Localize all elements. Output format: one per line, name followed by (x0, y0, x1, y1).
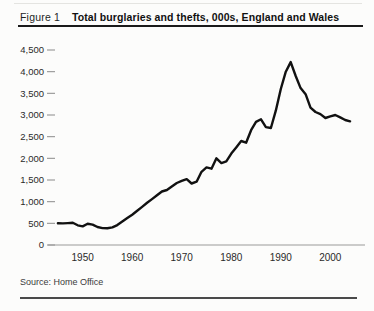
y-tick-label: 2,500 (20, 131, 44, 142)
figure-label: Figure 1 (20, 11, 60, 23)
y-tick-label: 1,500 (20, 174, 44, 185)
header-rule (18, 25, 363, 27)
x-tick-label: 1970 (171, 252, 194, 263)
y-tick-label: 4,000 (20, 66, 44, 77)
y-tick-label: 3,500 (20, 88, 44, 99)
data-line-series (58, 62, 350, 228)
y-tick-label: 0 (39, 239, 44, 250)
y-tick-label: 500 (28, 218, 44, 229)
figure-title: Total burglaries and thefts, 000s, Engla… (72, 11, 339, 23)
x-tick-label: 1980 (220, 252, 243, 263)
top-hairline (14, 3, 362, 4)
source-note: Source: Home Office (20, 277, 103, 287)
x-tick-label: 1960 (121, 252, 144, 263)
y-tick-label: 3,000 (20, 109, 44, 120)
line-chart: 05001,0001,5002,0002,5003,0003,5004,0004… (0, 32, 374, 272)
y-tick-label: 2,000 (20, 153, 44, 164)
x-tick-label: 1990 (270, 252, 293, 263)
figure-panel: Figure 1 Total burglaries and thefts, 00… (0, 0, 374, 311)
y-tick-label: 4,500 (20, 44, 44, 55)
y-tick-label: 1,000 (20, 196, 44, 207)
x-tick-label: 2000 (319, 252, 342, 263)
bottom-rule (20, 297, 357, 299)
x-tick-label: 1950 (72, 252, 95, 263)
